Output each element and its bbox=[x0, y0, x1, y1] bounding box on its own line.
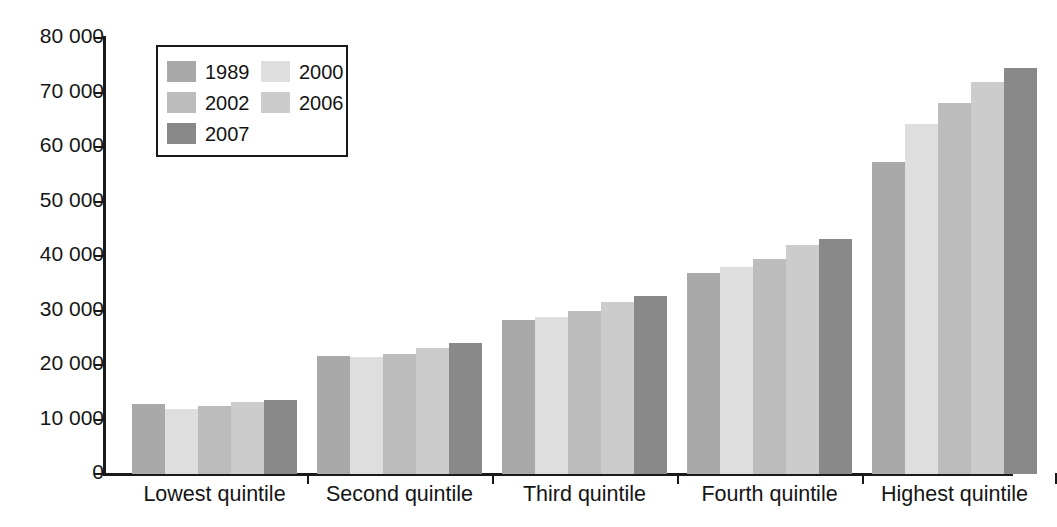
x-axis-tick bbox=[492, 473, 494, 484]
legend-item: 2007 bbox=[167, 118, 250, 149]
legend-label: 2006 bbox=[299, 93, 344, 113]
bar bbox=[971, 82, 1004, 474]
bar bbox=[383, 354, 416, 474]
legend-item: 1989 bbox=[167, 56, 250, 87]
legend-item: 2006 bbox=[261, 87, 344, 118]
bar bbox=[165, 409, 198, 474]
bar-group bbox=[687, 38, 852, 474]
x-axis-tick bbox=[862, 473, 864, 484]
bar-group bbox=[872, 38, 1037, 474]
legend-swatch-icon bbox=[261, 61, 290, 82]
bar bbox=[449, 343, 482, 474]
bar bbox=[350, 357, 383, 474]
x-axis-tick bbox=[677, 473, 679, 484]
legend-item: 2002 bbox=[167, 87, 250, 118]
legend-label: 1989 bbox=[205, 62, 250, 82]
bar bbox=[416, 348, 449, 474]
bar bbox=[132, 404, 165, 474]
legend-label: 2002 bbox=[205, 93, 250, 113]
legend-item: 2000 bbox=[261, 56, 344, 87]
x-axis-category-label: Second quintile bbox=[317, 482, 482, 507]
bar bbox=[786, 245, 819, 474]
bar bbox=[198, 406, 231, 474]
bar bbox=[634, 296, 667, 474]
legend-swatch-icon bbox=[167, 61, 196, 82]
legend-column-2: 20002006 bbox=[261, 56, 344, 118]
chart-legend: 198920022007 20002006 bbox=[156, 45, 348, 157]
legend-swatch-icon bbox=[261, 92, 290, 113]
bar bbox=[231, 402, 264, 474]
bar bbox=[1004, 68, 1037, 474]
x-axis-category-label: Highest quintile bbox=[872, 482, 1037, 507]
x-axis-category-label: Third quintile bbox=[502, 482, 667, 507]
bar bbox=[317, 356, 350, 474]
x-axis-category-label: Fourth quintile bbox=[687, 482, 852, 507]
bar bbox=[687, 273, 720, 474]
x-axis-category-label: Lowest quintile bbox=[132, 482, 297, 507]
legend-label: 2000 bbox=[299, 62, 344, 82]
bar-group bbox=[502, 38, 667, 474]
legend-swatch-icon bbox=[167, 123, 196, 144]
bar bbox=[535, 317, 568, 475]
bar bbox=[502, 320, 535, 474]
legend-column-1: 198920022007 bbox=[167, 56, 250, 149]
bar bbox=[819, 239, 852, 474]
bar bbox=[938, 103, 971, 474]
bar bbox=[753, 259, 786, 474]
bar bbox=[264, 400, 297, 474]
bar bbox=[601, 302, 634, 474]
bar bbox=[905, 124, 938, 474]
x-axis-tick bbox=[307, 473, 309, 484]
legend-swatch-icon bbox=[167, 92, 196, 113]
bar bbox=[568, 311, 601, 475]
legend-label: 2007 bbox=[205, 124, 250, 144]
bar bbox=[720, 267, 753, 474]
bar bbox=[872, 162, 905, 474]
